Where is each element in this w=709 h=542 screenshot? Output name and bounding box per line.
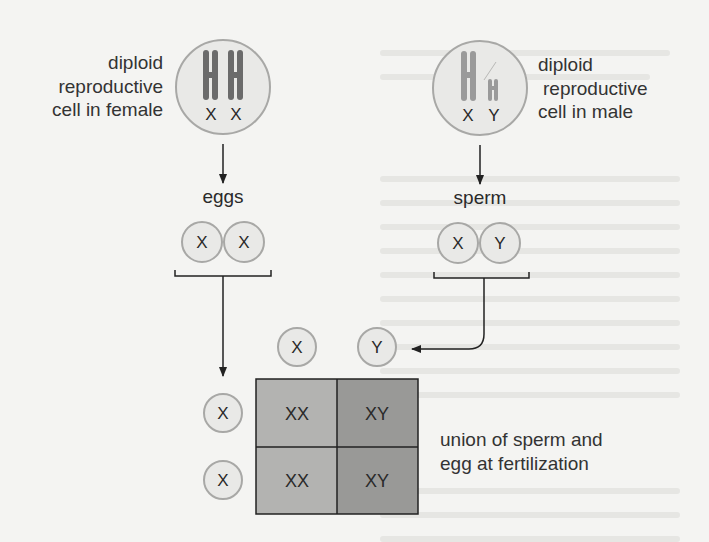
sperm-allele-2: Y: [494, 234, 505, 253]
female-label-line-1: diploid: [52, 51, 163, 75]
sperm-label: sperm: [454, 187, 507, 208]
punnett-column-headers: X Y: [278, 328, 396, 366]
column-header-1: X: [291, 338, 302, 357]
male-label-line-1: diploid: [538, 53, 648, 77]
eggs-label: eggs: [202, 186, 243, 207]
row-header-1: X: [217, 404, 228, 423]
female-cell-label: diploid reproductive cell in female: [52, 51, 163, 122]
caption-line-1: union of sperm and: [440, 428, 603, 452]
female-label-line-3: cell in female: [52, 98, 163, 122]
egg-gametes: X X: [182, 222, 264, 262]
punnett-cell-2-2: XY: [365, 471, 389, 491]
female-chromosome-label-1: X: [205, 105, 216, 124]
punnett-row-headers: X X: [204, 394, 242, 499]
sperm-gametes: X Y: [438, 223, 520, 263]
female-diploid-cell: X X: [176, 40, 270, 134]
male-chromosome-label-2: Y: [488, 106, 499, 125]
sperm-allele-1: X: [452, 234, 463, 253]
egg-allele-2: X: [238, 233, 249, 252]
punnett-cell-1-2: XY: [365, 404, 389, 424]
row-header-2: X: [217, 471, 228, 490]
male-label-line-2: reproductive: [538, 77, 648, 101]
male-cell-label: diploid reproductive cell in male: [538, 53, 648, 124]
male-label-line-3: cell in male: [538, 100, 648, 124]
male-chromosome-label-1: X: [462, 106, 473, 125]
egg-allele-1: X: [196, 233, 207, 252]
sperm-arrow-icon: [412, 278, 484, 349]
male-diploid-cell: X Y: [433, 41, 527, 135]
sperm-bracket: [434, 272, 529, 278]
caption-line-2: egg at fertilization: [440, 452, 603, 476]
fertilization-caption: union of sperm and egg at fertilization: [440, 428, 603, 475]
egg-bracket: [175, 270, 271, 276]
column-header-2: Y: [371, 338, 382, 357]
punnett-cell-1-1: XX: [285, 404, 309, 424]
punnett-cell-2-1: XX: [285, 471, 309, 491]
female-chromosome-label-2: X: [230, 105, 241, 124]
punnett-square: XX XY XX XY: [256, 379, 418, 514]
female-label-line-2: reproductive: [52, 75, 163, 99]
